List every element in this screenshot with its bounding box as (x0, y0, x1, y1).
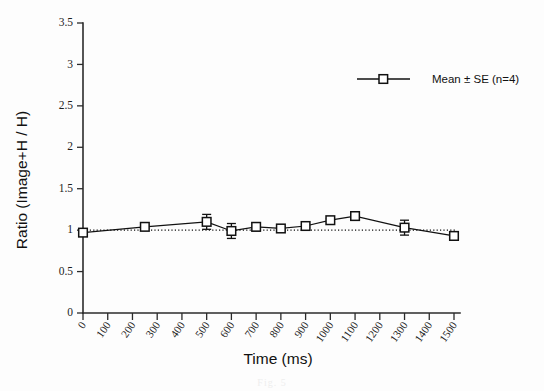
x-tick-label: 200 (118, 319, 138, 340)
x-tick-label: 600 (217, 319, 237, 340)
data-series-mean-se (79, 212, 459, 240)
data-point-marker (450, 232, 459, 241)
figure-container: 00.511.522.533.5 01002003004005006007008… (0, 0, 544, 391)
y-tick-label: 3 (67, 58, 73, 70)
data-point-marker (141, 223, 150, 232)
x-tick-label: 900 (291, 319, 311, 340)
data-point-marker (351, 212, 360, 221)
x-axis-label: Time (ms) (243, 350, 312, 367)
data-point-marker (227, 227, 236, 236)
data-point-marker (277, 224, 286, 233)
x-tick-label: 1300 (387, 319, 410, 344)
x-tick-label: 1200 (362, 319, 385, 344)
y-axis-ticks: 00.511.522.533.5 (59, 16, 83, 318)
data-point-marker (326, 216, 335, 225)
x-tick-label: 1500 (437, 319, 460, 344)
x-axis-ticks: 0100200300400500600700800900100011001200… (75, 313, 459, 344)
y-tick-label: 0.5 (59, 265, 74, 277)
y-axis-label: Ratio (Image+H / H) (13, 111, 30, 249)
x-tick-label: 100 (94, 319, 114, 340)
x-tick-label: 500 (193, 319, 213, 340)
data-point-marker (252, 223, 261, 232)
y-tick-label: 0 (67, 306, 73, 318)
y-tick-label: 3.5 (59, 16, 74, 28)
x-tick-label: 400 (168, 319, 188, 340)
data-point-marker (400, 223, 409, 232)
data-point-marker (79, 228, 88, 237)
data-point-marker (301, 222, 310, 231)
x-tick-label: 700 (242, 319, 262, 340)
data-point-marker (202, 218, 211, 227)
legend-marker-icon (379, 75, 388, 84)
axes-group (83, 23, 460, 313)
x-tick-label: 0 (75, 319, 88, 331)
line-chart: 00.511.522.533.5 01002003004005006007008… (0, 0, 544, 391)
x-tick-label: 1100 (338, 319, 361, 344)
y-tick-label: 1 (67, 223, 73, 235)
x-tick-label: 300 (143, 319, 163, 340)
x-tick-label: 800 (267, 319, 287, 340)
figure-caption-faint: Fig. 5 (0, 377, 544, 388)
x-tick-label: 1400 (412, 319, 435, 344)
y-tick-label: 1.5 (59, 182, 74, 194)
x-tick-label: 1000 (313, 319, 336, 344)
y-tick-label: 2.5 (59, 99, 74, 111)
y-tick-label: 2 (67, 140, 73, 152)
legend: Mean ± SE (n=4) (357, 73, 519, 85)
legend-label: Mean ± SE (n=4) (432, 73, 519, 85)
